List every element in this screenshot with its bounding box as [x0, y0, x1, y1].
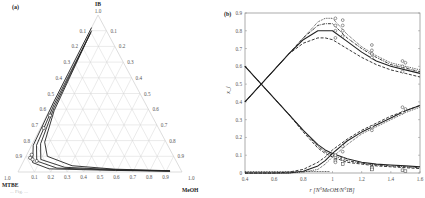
figure: (a)IB1.01.0MTBE1.0MeOH0.10.20.30.40.50.6… — [0, 0, 425, 198]
data-marker — [401, 70, 404, 73]
y-axis-label: x_i — [225, 86, 231, 95]
data-marker — [401, 106, 404, 109]
figure-caption-fragment: ... Fig. ... — [10, 189, 28, 194]
bottom-edge-tick: 0.2 — [48, 174, 55, 180]
x-tick-label: 1.2 — [358, 176, 365, 182]
y-tick-label: 0.5 — [236, 81, 243, 87]
data-marker — [341, 163, 344, 166]
data-marker — [42, 126, 45, 129]
left-edge-tick: 0.1 — [80, 28, 87, 34]
data-marker — [370, 49, 373, 52]
panel-label-b: (b) — [224, 11, 231, 18]
x-tick-label: 1 — [331, 176, 334, 182]
bottom-edge-tick: 0.3 — [64, 174, 71, 180]
bottom-edge-tick: 0.7 — [130, 174, 137, 180]
data-marker — [370, 129, 373, 132]
left-edge-tick: 0.6 — [40, 106, 47, 112]
grid-line — [166, 156, 174, 172]
vertex-value-ib: 1.0 — [95, 8, 102, 14]
vertex-label-meoh: MeOH — [182, 187, 199, 193]
data-marker — [334, 36, 337, 39]
left-edge-tick: 0.3 — [64, 59, 71, 65]
right-edge-tick: 0.9 — [178, 153, 185, 159]
bottom-edge-tick: 0.8 — [146, 174, 153, 180]
y-tick-label: 0.7 — [236, 46, 243, 52]
data-marker — [341, 157, 344, 160]
plot-frame — [245, 13, 420, 173]
data-marker — [404, 67, 407, 70]
data-marker — [341, 35, 344, 38]
data-marker — [35, 159, 38, 162]
data-marker — [334, 161, 337, 164]
bottom-edge-tick: 0.1 — [31, 174, 38, 180]
x-axis-label: r [N°MeOH/N°IB] — [310, 187, 356, 194]
data-marker — [370, 52, 373, 55]
bottom-edge-tick: 0.4 — [80, 174, 87, 180]
left-edge-tick: 0.4 — [56, 75, 63, 81]
grid-line — [74, 62, 133, 172]
left-edge-tick: 0.8 — [24, 138, 31, 144]
data-marker — [370, 125, 373, 128]
y-tick-label: 0.3 — [236, 117, 243, 123]
right-edge-tick: 0.2 — [119, 43, 126, 49]
series-line — [245, 24, 420, 102]
series-line — [245, 105, 420, 173]
bottom-edge-tick: 0.9 — [162, 174, 169, 180]
data-marker — [404, 108, 407, 111]
left-edge-tick: 0.7 — [32, 122, 39, 128]
ternary-plot-panel-a: (a)IB1.01.0MTBE1.0MeOH0.10.20.30.40.50.6… — [2, 1, 199, 193]
bottom-edge-tick: 0.5 — [97, 174, 104, 180]
data-marker — [341, 24, 344, 27]
data-marker — [370, 44, 373, 47]
x-tick-label: 0.8 — [300, 176, 307, 182]
left-edge-tick: 0.2 — [72, 43, 79, 49]
y-tick-label: 0.1 — [236, 152, 243, 158]
ternary-curve — [41, 32, 170, 171]
right-edge-tick: 0.4 — [136, 75, 143, 81]
grid-line — [90, 31, 166, 172]
data-marker — [404, 61, 407, 64]
right-edge-tick: 0.7 — [161, 122, 168, 128]
data-marker — [401, 169, 404, 172]
line-plot-panel-b: (b)00.10.20.30.40.50.60.70.80.90.40.60.8… — [224, 10, 424, 194]
bottom-edge-tick: 0.6 — [113, 174, 120, 180]
data-marker — [341, 19, 344, 22]
y-tick-label: 0.9 — [236, 10, 243, 16]
vertex-label-ib: IB — [95, 1, 101, 7]
grid-line — [100, 94, 140, 173]
panel-label-a: (a) — [12, 4, 19, 11]
data-marker — [31, 158, 34, 161]
data-marker — [401, 65, 404, 68]
vertex-label-mtbe: MTBE — [2, 182, 19, 188]
vertex-value-mtbe: 1.0 — [4, 175, 11, 181]
left-edge-tick: 0.9 — [16, 153, 23, 159]
right-edge-tick: 0.6 — [152, 106, 159, 112]
left-edge-tick: 0.5 — [48, 91, 55, 97]
x-tick-label: 1.4 — [388, 176, 395, 182]
data-marker — [370, 168, 373, 171]
right-edge-tick: 0.8 — [169, 138, 176, 144]
series-line — [245, 105, 420, 173]
right-edge-tick: 0.5 — [144, 91, 151, 97]
y-tick-label: 0.2 — [236, 134, 243, 140]
right-edge-tick: 0.1 — [110, 28, 117, 34]
data-marker — [341, 29, 344, 32]
ternary-curve — [45, 34, 170, 171]
data-marker — [404, 170, 407, 173]
grid-line — [67, 62, 123, 172]
y-tick-label: 0.4 — [236, 99, 243, 105]
data-marker — [334, 154, 337, 157]
data-marker — [401, 60, 404, 63]
data-marker — [334, 17, 337, 20]
x-tick-label: 0.4 — [242, 176, 249, 182]
data-marker — [370, 56, 373, 59]
data-marker — [401, 111, 404, 114]
y-tick-label: 0.6 — [236, 63, 243, 69]
vertex-value-meoh: 1.0 — [188, 175, 195, 181]
x-tick-label: 1.6 — [417, 176, 424, 182]
data-marker — [334, 29, 337, 32]
data-marker — [341, 145, 344, 148]
data-marker — [334, 24, 337, 27]
grid-line — [34, 31, 106, 172]
right-edge-tick: 0.3 — [127, 59, 134, 65]
